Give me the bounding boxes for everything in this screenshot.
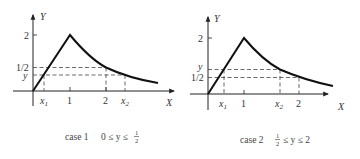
density-curve (33, 35, 158, 91)
caption-case1: case 1 0 ≤ y ≤ 1 2 (65, 129, 139, 144)
density-curve (208, 38, 333, 94)
y-tick-2: 2 (198, 33, 203, 44)
svg-text:case 1: case 1 (65, 132, 89, 142)
svg-text:case 2: case 2 (240, 135, 264, 145)
y-tick-y: y (197, 61, 203, 72)
y-tick-y: y (22, 70, 28, 81)
diagram-canvas: Y X 2 1/2 y x1 1 2 x2 case 1 0 ≤ y ≤ 1 2 (0, 0, 360, 159)
y-axis-label: Y (214, 13, 221, 24)
x-axis-label: X (165, 97, 173, 108)
x-tick-1: 1 (241, 98, 246, 109)
x-tick-x1: x1 (39, 95, 48, 108)
x-tick-2: 2 (103, 95, 108, 106)
x-tick-x2: x2 (274, 98, 283, 111)
caption-case2: case 2 1 2 ≤ y ≤ 2 (240, 132, 310, 147)
svg-text:1: 1 (135, 129, 138, 136)
x-tick-x2: x2 (120, 95, 129, 108)
svg-text:2: 2 (276, 140, 279, 147)
svg-text:2: 2 (135, 137, 138, 144)
x-tick-2: 2 (296, 98, 301, 109)
svg-text:≤ y ≤ 2: ≤ y ≤ 2 (283, 135, 310, 145)
panel-case2: Y X 2 y 1/2 x1 1 x2 2 case 2 1 2 ≤ y ≤ 2 (190, 13, 345, 147)
y-tick-2: 2 (24, 30, 29, 41)
y-axis-label: Y (40, 11, 47, 22)
svg-text:0 ≤ y ≤: 0 ≤ y ≤ (101, 132, 128, 142)
panel-case1: Y X 2 1/2 y x1 1 2 x2 case 1 0 ≤ y ≤ 1 2 (13, 11, 174, 144)
svg-text:1: 1 (276, 132, 279, 139)
x-tick-x1: x1 (218, 98, 227, 111)
x-axis-label: X (337, 101, 345, 112)
x-tick-1: 1 (67, 95, 72, 106)
y-tick-half: 1/2 (191, 72, 204, 83)
